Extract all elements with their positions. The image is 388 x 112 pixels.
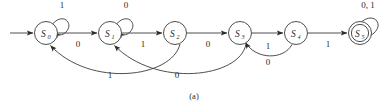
edge-S3-to-S4: 1 — [252, 33, 284, 51]
state-node-S2[interactable]: S 2 — [164, 22, 187, 45]
state-sub-S5: 5 — [362, 33, 365, 40]
state-sub-S3: 3 — [241, 33, 245, 40]
edge-S4-to-S5: 1 — [308, 33, 348, 49]
edge-label-S1-to-S2: 1 — [141, 39, 146, 49]
state-node-S1[interactable]: S 1 — [99, 22, 122, 45]
fsm-diagram: 0 1 0 1 1 1 0 0, 1 — [0, 0, 388, 112]
edge-label-S2-to-S0-back: 1 — [108, 70, 113, 80]
state-node-S5[interactable]: S 5 — [349, 22, 372, 45]
state-label-S4: S — [291, 29, 296, 39]
state-label-S2: S — [170, 29, 175, 39]
state-label-S5: S — [355, 29, 360, 39]
state-node-S3[interactable]: S 3 — [229, 22, 252, 45]
state-label-S0: S — [41, 29, 46, 39]
state-node-S0[interactable]: S 0 — [35, 22, 58, 45]
edge-S1-to-S2: 1 — [122, 33, 163, 49]
edge-label-S5-self: 0, 1 — [361, 0, 375, 10]
figure-canvas: 0 1 0 1 1 1 0 0, 1 — [0, 0, 388, 112]
edge-S2-to-S3: 0 — [187, 33, 228, 49]
edge-S2-to-S0-back: 1 — [51, 44, 181, 80]
state-sub-S1: 1 — [112, 33, 115, 40]
edge-S0-to-S1: 0 — [58, 33, 98, 49]
edge-label-S4-to-S3-back: 0 — [266, 57, 271, 67]
state-sub-S4: 4 — [298, 33, 301, 40]
state-node-S4[interactable]: S 4 — [285, 22, 308, 45]
state-label-S1: S — [105, 29, 110, 39]
edge-label-S0-self: 1 — [60, 0, 65, 10]
edge-label-S3-to-S4: 1 — [266, 41, 271, 51]
edge-label-S3-to-S1-back: 0 — [175, 70, 180, 80]
edge-label-S2-to-S3: 0 — [206, 39, 211, 49]
edge-label-S4-to-S5: 1 — [326, 39, 331, 49]
state-sub-S2: 2 — [177, 33, 180, 40]
state-label-S3: S — [235, 29, 240, 39]
edge-S3-to-S1-back: 0 — [115, 44, 247, 80]
figure-caption: (a) — [189, 91, 199, 101]
edge-label-S1-self: 0 — [124, 0, 129, 10]
edge-label-S0-to-S1: 0 — [76, 39, 81, 49]
